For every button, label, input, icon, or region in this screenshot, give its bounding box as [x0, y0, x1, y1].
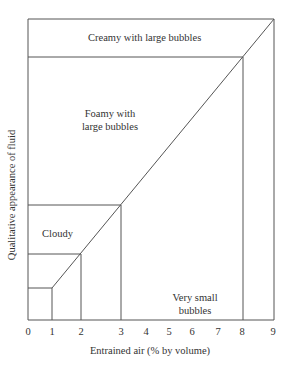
x-tick-9: 9	[267, 326, 279, 337]
x-tick-3: 3	[115, 326, 127, 337]
diagram-lines	[0, 0, 290, 371]
x-tick-1: 1	[46, 326, 58, 337]
diagonal-boundary	[52, 19, 274, 288]
x-tick-5: 5	[163, 326, 175, 337]
x-tick-7: 7	[212, 326, 224, 337]
x-tick-6: 6	[186, 326, 198, 337]
region-foamy-label-line1: Foamy with	[75, 108, 145, 120]
region-creamy-label: Creamy with large bubbles	[88, 32, 201, 44]
y-axis-label: Qualitative appearance of fluid	[6, 130, 17, 260]
region-cloudy-label: Cloudy	[42, 228, 73, 240]
x-tick-8: 8	[236, 326, 248, 337]
x-tick-4: 4	[140, 326, 152, 337]
x-tick-0: 0	[22, 326, 34, 337]
region-very-small-label-line1: Very small	[160, 292, 230, 304]
region-foamy-label-line2: large bubbles	[75, 121, 145, 133]
x-tick-2: 2	[75, 326, 87, 337]
x-axis-label: Entrained air (% by volume)	[90, 345, 210, 356]
region-very-small-label-line2: bubbles	[160, 305, 230, 317]
